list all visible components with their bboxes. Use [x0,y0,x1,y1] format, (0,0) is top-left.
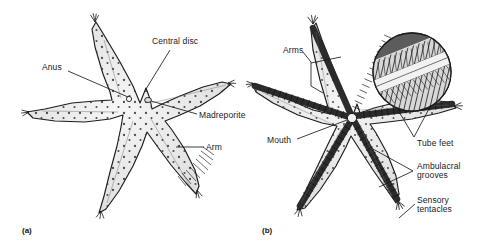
label-arm: Arm [206,143,222,152]
label-tube-feet: Tube feet [417,139,454,148]
label-madreporite: Madreporite [199,111,245,120]
starfish-aboral-body [0,0,245,249]
mouth-marker [347,113,356,122]
label-sensory-tentacles: Sensory tentacles [417,196,452,214]
madreporite-marker [145,98,152,103]
sensory-tentacles-tuft [395,201,405,212]
label-central-disc: Central disc [152,37,198,46]
panel-b-caption: (b) [262,226,272,235]
leader-central-disc [146,50,170,89]
starfish-anatomy-figure: Anus Central disc Madreporite Arm Arms M… [0,0,479,249]
label-mouth: Mouth [267,136,291,145]
panel-a-drawing [0,0,245,249]
anus-marker [126,96,131,101]
panel-a-caption: (a) [22,226,32,235]
label-arms: Arms [283,46,303,55]
label-anus: Anus [42,63,62,72]
aboral-spine-bumps [0,0,245,249]
label-ambulacral-grooves: Ambulacral grooves [417,162,461,180]
